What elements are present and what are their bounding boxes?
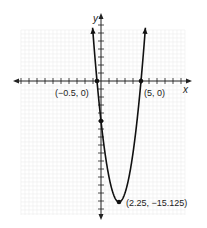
data-point bbox=[117, 200, 122, 205]
graph-canvas: y x (−0.5, 0) (5, 0) (2.25, −15.125) bbox=[0, 0, 207, 228]
vertex-label: (2.25, −15.125) bbox=[126, 198, 187, 208]
y-axis-label: y bbox=[92, 13, 99, 24]
grid bbox=[21, 30, 185, 215]
curve-right-arrow-icon bbox=[142, 28, 147, 34]
x-axis-right-arrow-icon bbox=[186, 79, 192, 84]
x-axis-left-arrow-icon bbox=[13, 79, 19, 84]
y-axis-up-arrow-icon bbox=[99, 13, 104, 19]
curve-left-arrow-icon bbox=[90, 28, 95, 34]
data-point bbox=[99, 119, 104, 124]
y-axis-down-arrow-icon bbox=[99, 214, 104, 220]
x-axis-label: x bbox=[182, 84, 189, 95]
data-point bbox=[139, 79, 144, 84]
right-root-label: (5, 0) bbox=[144, 88, 165, 98]
data-point bbox=[95, 79, 100, 84]
left-root-label: (−0.5, 0) bbox=[55, 88, 89, 98]
